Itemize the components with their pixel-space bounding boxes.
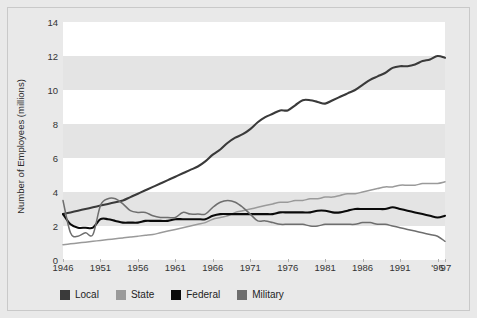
chart-figure: 02468101214 Number of Employees (million… xyxy=(0,0,477,318)
legend-item-state[interactable]: State xyxy=(116,289,154,300)
y-tick-label: 2 xyxy=(53,221,58,232)
x-tick-mark xyxy=(138,259,139,262)
y-tick-label: 10 xyxy=(47,85,58,96)
x-tick-mark xyxy=(400,259,401,262)
x-tick-label: 1981 xyxy=(315,262,336,273)
x-tick-mark xyxy=(213,259,214,262)
x-tick-label: 1976 xyxy=(277,262,298,273)
legend-label: Military xyxy=(252,289,284,300)
legend-item-military[interactable]: Military xyxy=(237,289,284,300)
x-tick-label: 1971 xyxy=(240,262,261,273)
legend-swatch-icon xyxy=(60,290,70,300)
x-tick-label: 1951 xyxy=(90,262,111,273)
x-tick-label: 1991 xyxy=(389,262,410,273)
x-tick-mark xyxy=(363,259,364,262)
x-tick-mark xyxy=(445,259,446,262)
x-tick-label: '97 xyxy=(439,262,451,273)
x-tick-mark xyxy=(175,259,176,262)
x-tick-label: 1956 xyxy=(127,262,148,273)
y-tick-label: 6 xyxy=(53,153,58,164)
y-axis-ticks: 02468101214 xyxy=(30,22,58,260)
x-tick-label: 1961 xyxy=(165,262,186,273)
y-tick-label: 12 xyxy=(47,51,58,62)
x-tick-label: 1946 xyxy=(52,262,73,273)
x-axis-ticks: 1946195119561961196619711976198119861991… xyxy=(63,262,445,278)
legend-item-federal[interactable]: Federal xyxy=(171,289,220,300)
y-tick-label: 4 xyxy=(53,187,58,198)
series-line-local xyxy=(63,56,445,214)
y-axis-label: Number of Employees (millions) xyxy=(15,47,26,247)
x-tick-label: 1966 xyxy=(202,262,223,273)
chart-legend: LocalStateFederalMilitary xyxy=(60,289,284,300)
legend-label: State xyxy=(131,289,154,300)
x-tick-mark xyxy=(100,259,101,262)
legend-label: Federal xyxy=(186,289,220,300)
x-tick-mark xyxy=(325,259,326,262)
series-line-military xyxy=(63,198,445,241)
x-tick-mark xyxy=(288,259,289,262)
plot-area xyxy=(63,22,445,260)
y-tick-label: 14 xyxy=(47,17,58,28)
legend-swatch-icon xyxy=(171,290,181,300)
x-tick-mark xyxy=(63,259,64,262)
x-tick-mark xyxy=(250,259,251,262)
legend-swatch-icon xyxy=(237,290,247,300)
y-tick-label: 8 xyxy=(53,119,58,130)
legend-label: Local xyxy=(75,289,99,300)
series-lines xyxy=(63,22,445,260)
x-tick-label: 1986 xyxy=(352,262,373,273)
legend-swatch-icon xyxy=(116,290,126,300)
legend-item-local[interactable]: Local xyxy=(60,289,99,300)
